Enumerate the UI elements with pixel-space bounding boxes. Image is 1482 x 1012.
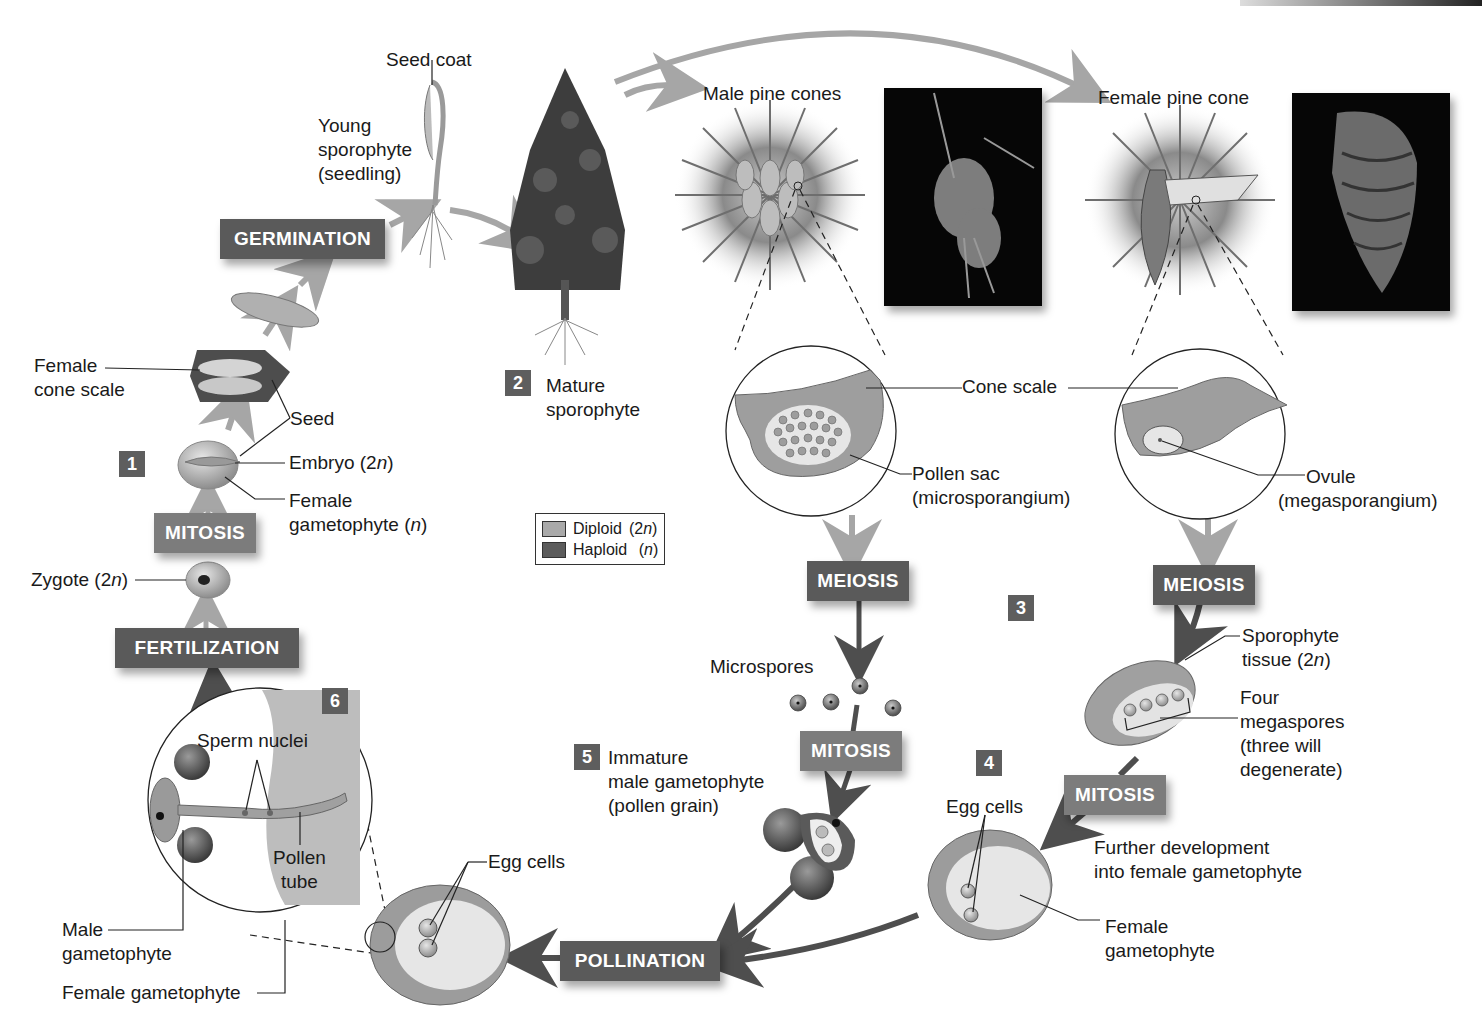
male-pine-cones-photo	[884, 88, 1042, 306]
female-pine-cone-photo	[1292, 93, 1450, 311]
seed-coat-label: Seed coat	[386, 48, 472, 72]
egg-cells-right-label: Egg cells	[946, 795, 1023, 819]
legend-item-diploid: Diploid (2n)	[542, 518, 658, 539]
mitosis-seed-box: MITOSIS	[154, 513, 256, 553]
further-development-label: Further developmentinto female gametophy…	[1094, 836, 1302, 884]
microspores-label: Microspores	[710, 655, 813, 679]
step-badge-5: 5	[574, 744, 600, 770]
female-gametophyte-bottom-label: Female gametophyte	[62, 981, 241, 1005]
pine-tree	[510, 68, 625, 365]
egg-cells-bottom-label: Egg cells	[488, 850, 565, 874]
meiosis-male-box: MEIOSIS	[807, 561, 909, 601]
step-badge-1: 1	[119, 451, 145, 477]
female-cone-scale-label: Femalecone scale	[34, 354, 125, 402]
step-badge-3: 3	[1008, 595, 1034, 621]
step-badge-6: 6	[322, 688, 348, 714]
pollen-tube-label: Pollentube	[273, 846, 326, 894]
mitosis-female-box: MITOSIS	[1064, 775, 1166, 815]
step-badge-2: 2	[505, 370, 531, 396]
female-gametophyte-seed-label: Female gametophyte (n)	[289, 489, 427, 537]
male-pine-cones-label: Male pine cones	[703, 82, 841, 106]
immature-male-gametophyte-label: Immaturemale gametophyte(pollen grain)	[608, 746, 764, 818]
fertilization-box: FERTILIZATION	[115, 628, 299, 668]
cone-scale-label: Cone scale	[962, 375, 1057, 399]
mature-sporophyte-label: Maturesporophyte	[546, 374, 640, 422]
seed-label: Seed	[290, 407, 334, 431]
mitosis-male-box: MITOSIS	[800, 731, 902, 771]
four-megaspores-label: Fourmegaspores(three willdegenerate)	[1240, 686, 1345, 782]
sporophyte-tissue-label: Sporophyte tissue (2n)	[1242, 624, 1339, 672]
haploid-swatch	[542, 542, 566, 558]
ovule-label: Ovule(megasporangium)	[1278, 465, 1437, 513]
female-pine-cone-label: Female pine cone	[1098, 86, 1249, 110]
meiosis-female-box: MEIOSIS	[1153, 565, 1255, 605]
step-badge-4: 4	[976, 750, 1002, 776]
pollen-sac-label: Pollen sac(microsporangium)	[912, 462, 1070, 510]
young-sporophyte-label: Youngsporophyte(seedling)	[318, 114, 412, 186]
germination-box: GERMINATION	[220, 219, 385, 259]
ploidy-legend: Diploid (2n) Haploid (n)	[535, 513, 665, 565]
legend-item-haploid: Haploid (n)	[542, 539, 658, 560]
male-gametophyte-label: Malegametophyte	[62, 918, 172, 966]
diploid-swatch	[542, 521, 566, 537]
embryo-label: Embryo (2n)	[289, 451, 394, 475]
pollination-box: POLLINATION	[560, 941, 720, 981]
female-gametophyte-right-label: Femalegametophyte	[1105, 915, 1215, 963]
sperm-nuclei-label: Sperm nuclei	[197, 729, 308, 753]
zygote-label: Zygote (2n)	[31, 568, 128, 592]
